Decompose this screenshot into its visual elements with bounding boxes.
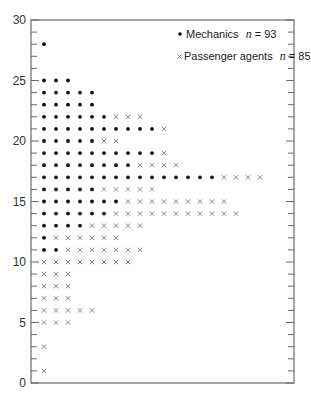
passenger-agent-point [126, 211, 130, 215]
passenger-agent-point [102, 248, 106, 252]
mechanics-point [174, 175, 178, 179]
plot-frame [31, 20, 294, 383]
passenger-agent-point [138, 248, 142, 252]
passenger-agent-point [174, 199, 178, 203]
passenger-agent-point [126, 199, 130, 203]
mechanics-point [54, 151, 58, 155]
passenger-agent-point [54, 308, 58, 312]
mechanics-point [78, 139, 82, 143]
passenger-agent-point [66, 308, 70, 312]
mechanics-point [66, 188, 70, 192]
mechanics-point [54, 91, 58, 95]
mechanics-point [54, 224, 58, 228]
mechanics-point [150, 151, 154, 155]
passenger-agent-point [114, 139, 118, 143]
passenger-agent-point [138, 199, 142, 203]
passenger-agent-point [162, 127, 166, 131]
mechanics-point [162, 175, 166, 179]
passenger-agent-point [102, 187, 106, 191]
passenger-agent-point [42, 308, 46, 312]
passenger-agent-point [162, 211, 166, 215]
passenger-agent-point [42, 320, 46, 324]
passenger-agent-point [54, 260, 58, 264]
passenger-agent-point [42, 284, 46, 288]
mechanics-point [54, 175, 58, 179]
passenger-agent-point [222, 175, 226, 179]
mechanics-point [90, 175, 94, 179]
mechanics-point [42, 151, 46, 155]
mechanics-point [78, 91, 82, 95]
cross-marker-icon [178, 55, 182, 59]
mechanics-point [42, 200, 46, 204]
mechanics-point [66, 79, 70, 83]
mechanics-point [54, 103, 58, 107]
y-tick-label: 15 [13, 195, 27, 209]
passenger-agent-point [258, 175, 262, 179]
passenger-agent-point [162, 163, 166, 167]
mechanics-point [66, 163, 70, 167]
mechanics-point [42, 42, 46, 46]
mechanics-point [138, 151, 142, 155]
mechanics-point [78, 200, 82, 204]
mechanics-point [54, 163, 58, 167]
mechanics-point [66, 200, 70, 204]
passenger-agent-point [102, 260, 106, 264]
mechanics-point [90, 115, 94, 119]
passenger-agent-point [42, 296, 46, 300]
mechanics-point [42, 103, 46, 107]
mechanics-point [102, 212, 106, 216]
y-tick-label: 20 [13, 134, 27, 148]
mechanics-point [90, 188, 94, 192]
mechanics-point [90, 212, 94, 216]
mechanics-point [90, 151, 94, 155]
passenger-agent-point [150, 163, 154, 167]
passenger-agent-point [102, 139, 106, 143]
passenger-agent-point [138, 115, 142, 119]
mechanics-point [114, 151, 118, 155]
mechanics-point [126, 127, 130, 131]
passenger-agent-point [90, 248, 94, 252]
mechanics-point [102, 163, 106, 167]
legend-label-passenger-agents: Passenger agents n = 85 [184, 49, 310, 63]
mechanics-point [78, 212, 82, 216]
mechanics-point [66, 115, 70, 119]
passenger-agent-point [150, 187, 154, 191]
mechanics-point [126, 151, 130, 155]
passenger-agent-point [138, 211, 142, 215]
mechanics-point [210, 175, 214, 179]
passenger-agent-point [90, 308, 94, 312]
passenger-agent-point [78, 260, 82, 264]
mechanics-point [42, 188, 46, 192]
mechanics-point [102, 127, 106, 131]
mechanics-point [78, 103, 82, 107]
passenger-agent-point [186, 199, 190, 203]
mechanics-point [78, 115, 82, 119]
passenger-agent-point [66, 296, 70, 300]
passenger-agent-point [234, 211, 238, 215]
mechanics-point [186, 175, 190, 179]
passenger-agent-point [222, 199, 226, 203]
passenger-agent-point [54, 236, 58, 240]
mechanics-point [198, 175, 202, 179]
mechanics-point [42, 115, 46, 119]
mechanics-point [54, 127, 58, 131]
passenger-agent-point [102, 224, 106, 228]
passenger-agent-point [114, 224, 118, 228]
passenger-agent-point [78, 308, 82, 312]
mechanics-point [42, 139, 46, 143]
y-tick-label: 30 [13, 13, 27, 27]
mechanics-point [42, 175, 46, 179]
passenger-agent-point [114, 236, 118, 240]
passenger-agent-point [234, 175, 238, 179]
passenger-agent-point [42, 260, 46, 264]
passenger-agent-point [114, 260, 118, 264]
passenger-agent-point [210, 211, 214, 215]
passenger-agent-point [186, 211, 190, 215]
passenger-agent-point [114, 211, 118, 215]
legend-item-passenger-agents: Passenger agents n = 85 [178, 49, 311, 63]
mechanics-point [54, 188, 58, 192]
mechanics-point [114, 163, 118, 167]
mechanics-point [102, 175, 106, 179]
y-axis-ticks [31, 20, 294, 383]
passenger-agent-point [126, 260, 130, 264]
